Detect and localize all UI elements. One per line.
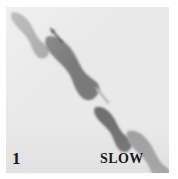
dark-footprint-marking-lower: [88, 102, 137, 155]
slow-road-word-marking: SLOW: [100, 152, 144, 166]
dark-footprint-marking-upper: [36, 30, 105, 105]
figure-root: 1 SLOW: [0, 0, 178, 179]
road-marking-illustration: [6, 7, 169, 173]
panel-number-label: 1: [12, 150, 21, 167]
light-footprint-marking-top-left: [6, 8, 53, 61]
road-marking-photo-panel: 1 SLOW: [6, 7, 169, 173]
